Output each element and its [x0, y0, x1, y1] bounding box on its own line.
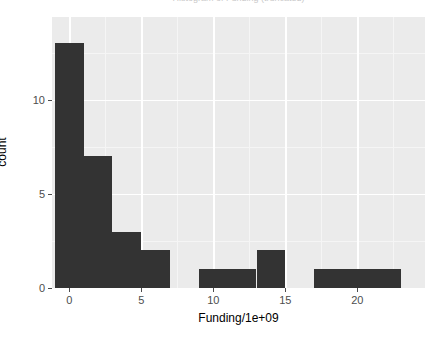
histogram-figure: Histogram of Funding (truncated) 0510152… — [0, 0, 438, 338]
gridline-minor-horizontal — [52, 147, 425, 148]
x-axis-label: Funding/1e+09 — [52, 311, 425, 325]
y-tick-mark — [48, 194, 52, 195]
x-tick-mark — [141, 288, 142, 292]
y-tick-label: 5 — [39, 188, 45, 200]
gridline-major-horizontal — [52, 100, 425, 101]
gridline-minor-horizontal — [52, 53, 425, 54]
y-tick-label: 0 — [39, 282, 45, 294]
y-tick-mark — [48, 288, 52, 289]
histogram-bar — [141, 250, 170, 288]
histogram-bar — [228, 269, 257, 288]
gridline-major-vertical — [285, 17, 286, 288]
x-tick-mark — [69, 288, 70, 292]
y-tick-mark — [48, 100, 52, 101]
gridline-major-vertical — [141, 17, 142, 288]
x-tick-label: 10 — [207, 294, 219, 306]
histogram-bar — [257, 250, 286, 288]
x-tick-mark — [213, 288, 214, 292]
histogram-bar — [112, 232, 141, 288]
histogram-bar — [199, 269, 228, 288]
histogram-bar — [343, 269, 372, 288]
gridline-minor-vertical — [249, 17, 250, 288]
gridline-minor-vertical — [177, 17, 178, 288]
page-title: Histogram of Funding (truncated) — [52, 0, 425, 3]
x-tick-label: 15 — [279, 294, 291, 306]
histogram-bar — [372, 269, 401, 288]
y-axis-label: count — [0, 137, 9, 166]
x-tick-label: 5 — [138, 294, 144, 306]
histogram-bar — [55, 43, 84, 288]
x-tick-mark — [357, 288, 358, 292]
gridline-major-vertical — [357, 17, 358, 288]
y-tick-label: 10 — [33, 94, 45, 106]
gridline-minor-vertical — [393, 17, 394, 288]
gridline-major-vertical — [213, 17, 214, 288]
histogram-bar — [314, 269, 343, 288]
x-tick-label: 20 — [351, 294, 363, 306]
x-tick-mark — [285, 288, 286, 292]
x-tick-label: 0 — [66, 294, 72, 306]
histogram-bar — [84, 156, 113, 288]
plot-panel — [52, 17, 425, 288]
gridline-minor-vertical — [321, 17, 322, 288]
